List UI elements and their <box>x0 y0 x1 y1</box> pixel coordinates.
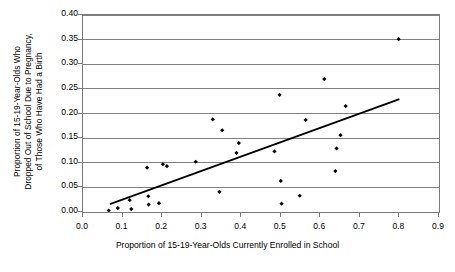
y-axis-tick-label: 0.10 <box>52 157 78 166</box>
data-point-marker <box>279 179 283 183</box>
x-axis-tick-mark <box>122 213 123 217</box>
data-point-marker <box>157 201 161 205</box>
data-point-marker <box>220 128 224 132</box>
x-axis-tick-label: 0.7 <box>344 222 374 231</box>
x-axis-tick-label: 0.3 <box>186 222 216 231</box>
x-axis-tick-label: 0.9 <box>423 222 453 231</box>
y-axis-tick-label: 0.30 <box>52 58 78 67</box>
data-point-marker <box>116 206 120 210</box>
data-point-marker <box>277 93 281 97</box>
y-axis-tick-label: 0.35 <box>52 34 78 43</box>
data-point-marker <box>338 133 342 137</box>
data-points <box>107 37 401 212</box>
y-axis-tick-labels: 0.000.050.100.150.200.250.300.350.40 <box>52 0 78 222</box>
data-point-marker <box>129 207 133 211</box>
y-axis-title-line-2: Dropped Out of School Due to Pregnancy, <box>23 33 34 189</box>
data-point-marker <box>322 77 326 81</box>
x-axis-title: Proportion of 15-19-Year-Olds Currently … <box>0 240 455 250</box>
x-axis-tick-mark <box>240 213 241 217</box>
data-point-marker <box>128 198 132 202</box>
x-axis-tick-mark <box>82 213 83 217</box>
data-point-marker <box>344 104 348 108</box>
x-axis-tick-mark <box>438 213 439 217</box>
data-point-marker <box>279 202 283 206</box>
x-axis-tick-mark <box>201 213 202 217</box>
data-point-marker <box>304 118 308 122</box>
x-axis-tick-label: 0.1 <box>107 222 137 231</box>
y-axis-title-line-1: Proportion of 15-19-Year-Olds Who <box>12 33 23 189</box>
plot-canvas <box>83 15 439 212</box>
y-axis-title: Proportion of 15-19-Year-Olds Who Droppe… <box>0 0 56 222</box>
x-axis-tick-mark <box>280 213 281 217</box>
trendline <box>110 99 400 204</box>
data-point-marker <box>147 203 151 207</box>
data-point-marker <box>145 166 149 170</box>
data-point-marker <box>234 151 238 155</box>
y-axis-tick-label: 0.40 <box>52 9 78 18</box>
x-axis-tick-mark <box>161 213 162 217</box>
trendline-segment <box>110 99 400 204</box>
x-axis-tick-label: 0.2 <box>146 222 176 231</box>
plot-area <box>82 14 440 213</box>
gridlines <box>83 15 439 187</box>
data-point-marker <box>272 149 276 153</box>
data-point-marker <box>397 37 401 41</box>
data-point-marker <box>165 164 169 168</box>
y-axis-tick-label: 0.20 <box>52 108 78 117</box>
x-axis-tick-mark <box>359 213 360 217</box>
data-point-marker <box>334 146 338 150</box>
y-axis-tick-label: 0.00 <box>52 206 78 215</box>
x-axis-tick-label: 0.6 <box>304 222 334 231</box>
y-axis-tick-label: 0.15 <box>52 132 78 141</box>
x-axis-tick-mark <box>398 213 399 217</box>
x-axis-tick-label: 0.4 <box>225 222 255 231</box>
x-axis-tick-label: 0.0 <box>67 222 97 231</box>
x-axis-tick-mark <box>319 213 320 217</box>
data-point-marker <box>217 190 221 194</box>
data-point-marker <box>211 117 215 121</box>
x-axis-tick-labels: 0.00.10.20.30.40.50.60.70.80.9 <box>0 216 455 230</box>
data-point-marker <box>146 194 150 198</box>
y-axis-tick-label: 0.05 <box>52 181 78 190</box>
data-point-marker <box>298 194 302 198</box>
y-axis-title-line-3: of Those Who Have Had a Birth <box>34 33 45 189</box>
x-axis-tick-label: 0.5 <box>265 222 295 231</box>
scatter-chart: Proportion of 15-19-Year-Olds Who Droppe… <box>0 0 455 272</box>
data-point-marker <box>333 169 337 173</box>
data-point-marker <box>107 208 111 212</box>
x-axis-tick-label: 0.8 <box>383 222 413 231</box>
y-axis-tick-label: 0.25 <box>52 83 78 92</box>
data-point-marker <box>237 141 241 145</box>
